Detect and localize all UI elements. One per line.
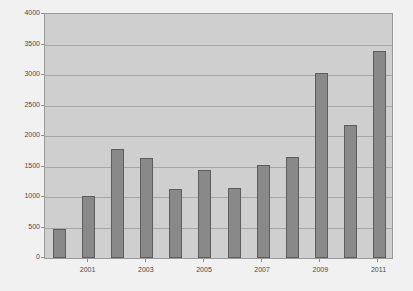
y-tick-mark: [41, 44, 44, 45]
x-tick-mark: [319, 259, 320, 262]
y-tick-label: 3000: [24, 70, 40, 78]
bar-2008: [286, 157, 299, 258]
x-tick-label: 2007: [254, 265, 270, 274]
y-tick-mark: [41, 166, 44, 167]
y-tick-mark: [41, 13, 44, 14]
y-tick-mark: [41, 227, 44, 228]
bar-2011: [373, 51, 386, 258]
y-tick-label: 3500: [24, 40, 40, 48]
bar-2001: [82, 196, 95, 258]
bar-2010: [344, 125, 357, 258]
bar-2005: [198, 170, 211, 258]
y-axis-labels: 05001000150020002500300035004000: [0, 0, 40, 291]
x-tick-mark: [203, 259, 204, 262]
plot-area: [44, 13, 393, 259]
bar-2009: [315, 73, 328, 258]
x-tick-label: 2011: [371, 265, 386, 274]
x-tick-mark: [87, 259, 88, 262]
y-tick-mark: [41, 257, 44, 258]
y-tick-label: 1500: [24, 162, 40, 170]
y-tick-mark: [41, 74, 44, 75]
y-tick-mark: [41, 135, 44, 136]
y-tick-label: 2000: [24, 131, 40, 139]
x-axis-labels: 200120032005200720092011: [0, 265, 413, 279]
bar-2006: [228, 188, 241, 258]
x-tick-label: 2005: [196, 265, 212, 274]
x-tick-label: 2009: [313, 265, 329, 274]
y-tick-label: 1000: [24, 192, 40, 200]
bar-2007: [257, 165, 270, 258]
y-tick-mark: [41, 196, 44, 197]
y-tick-mark: [41, 105, 44, 106]
x-tick-mark: [145, 259, 146, 262]
bar-chart: 05001000150020002500300035004000 2001200…: [0, 0, 413, 291]
bars-layer: [45, 14, 392, 258]
y-tick-label: 0: [36, 253, 40, 261]
bar-2003: [140, 158, 153, 258]
y-tick-label: 500: [28, 223, 40, 231]
x-tick-label: 2003: [138, 265, 154, 274]
y-tick-label: 2500: [24, 101, 40, 109]
x-tick-label: 2001: [80, 265, 96, 274]
bar-2000: [53, 229, 66, 258]
bar-2002: [111, 149, 124, 258]
x-tick-mark: [261, 259, 262, 262]
x-tick-mark: [377, 259, 378, 262]
y-tick-label: 4000: [24, 9, 40, 17]
bar-2004: [169, 189, 182, 259]
